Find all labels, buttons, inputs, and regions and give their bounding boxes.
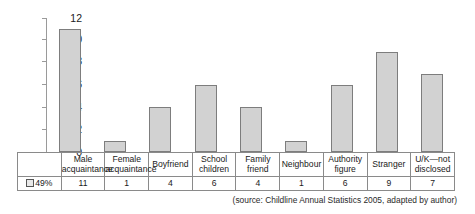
category-label-3: Schoolchildren xyxy=(192,153,236,177)
category-label-line: friend xyxy=(236,165,279,175)
bar-cell xyxy=(183,18,228,152)
category-label-line: acquaintance xyxy=(62,165,105,175)
bar-cell xyxy=(92,18,137,152)
category-value-6: 6 xyxy=(323,177,367,191)
category-label-1: Femaleacquaintance xyxy=(105,153,149,177)
category-label-line: Boyfriend xyxy=(149,160,192,170)
bar-8[interactable] xyxy=(421,74,443,152)
category-label-8: U/K—notdisclosed xyxy=(411,153,455,177)
category-label-6: Authorityfigure xyxy=(323,153,367,177)
category-value-8: 7 xyxy=(411,177,455,191)
bar-cell xyxy=(47,18,92,152)
category-value-5: 1 xyxy=(280,177,324,191)
bar-0[interactable] xyxy=(59,29,81,152)
bar-cell xyxy=(364,18,409,152)
bar-3[interactable] xyxy=(195,85,217,152)
bar-series xyxy=(47,18,455,152)
category-label-line: figure xyxy=(324,165,367,175)
bar-cell xyxy=(274,18,319,152)
legend-swatch-icon xyxy=(26,179,34,187)
chart-figure: 0 2 4 6 8 10 12 MaleacquaintanceFemaleac… xyxy=(0,0,475,214)
category-label-line: acquaintance xyxy=(105,165,148,175)
data-table: MaleacquaintanceFemaleacquaintanceBoyfri… xyxy=(17,152,455,191)
legend-spacer xyxy=(18,153,62,177)
table-row-values: 49% 1114641697 xyxy=(18,177,455,191)
legend-label: 49% xyxy=(35,178,52,188)
bar-cell xyxy=(228,18,273,152)
category-label-4: Familyfriend xyxy=(236,153,280,177)
category-value-3: 6 xyxy=(192,177,236,191)
bar-cell xyxy=(410,18,455,152)
category-label-line: Neighbour xyxy=(280,160,323,170)
legend-cell: 49% xyxy=(18,177,62,191)
category-label-7: Stranger xyxy=(367,153,411,177)
category-value-4: 4 xyxy=(236,177,280,191)
bar-4[interactable] xyxy=(240,107,262,152)
bar-cell xyxy=(319,18,364,152)
bar-7[interactable] xyxy=(376,52,398,153)
category-label-5: Neighbour xyxy=(280,153,324,177)
bar-6[interactable] xyxy=(331,85,353,152)
category-label-0: Maleacquaintance xyxy=(61,153,105,177)
category-label-line: Stranger xyxy=(368,160,411,170)
bar-5[interactable] xyxy=(285,141,307,152)
category-value-1: 1 xyxy=(105,177,149,191)
category-label-line: children xyxy=(193,165,236,175)
plot-area: 0 2 4 6 8 10 12 xyxy=(46,18,455,152)
bar-cell xyxy=(138,18,183,152)
bar-2[interactable] xyxy=(149,107,171,152)
category-value-7: 9 xyxy=(367,177,411,191)
source-caption: (source: Childline Annual Statistics 200… xyxy=(233,195,457,205)
bar-1[interactable] xyxy=(104,141,126,152)
table-row-labels: MaleacquaintanceFemaleacquaintanceBoyfri… xyxy=(18,153,455,177)
category-value-0: 11 xyxy=(61,177,105,191)
category-value-2: 4 xyxy=(149,177,193,191)
category-label-line: disclosed xyxy=(411,165,454,175)
